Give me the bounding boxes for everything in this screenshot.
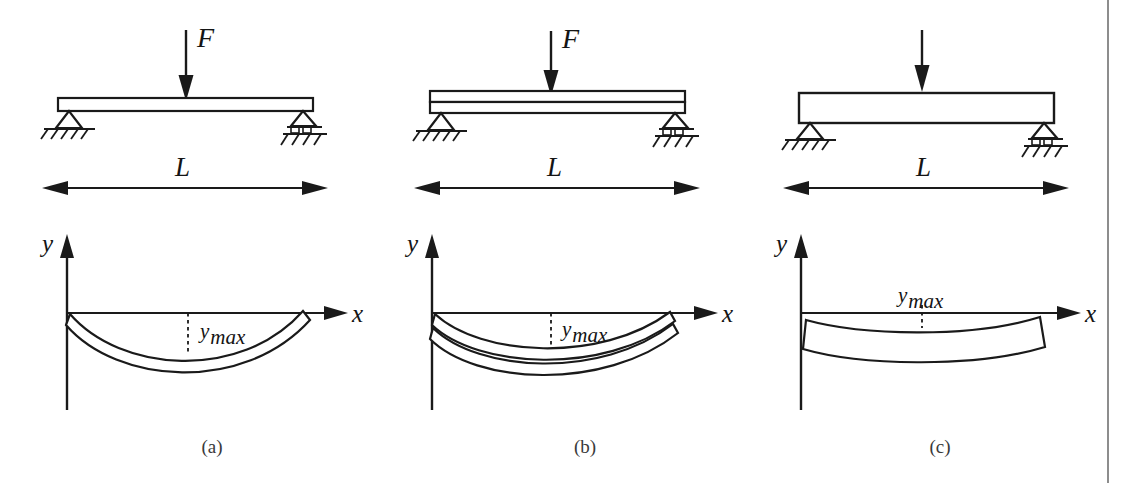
panel-caption-b: (b) — [574, 436, 596, 458]
panel-caption-c: (c) — [929, 436, 950, 458]
y-axis-label-b: y — [404, 230, 419, 257]
support-left-a — [41, 111, 95, 139]
support-left-c — [782, 123, 836, 150]
deflection-curve-c — [803, 317, 1045, 362]
beam-deflection-figure: F — [0, 0, 1131, 483]
span-label-c: L — [915, 152, 931, 182]
y-axis-label-c: y — [773, 230, 788, 257]
span-dimension-c — [783, 181, 1069, 195]
force-arrow-b — [544, 31, 559, 96]
y-axis-label-a: y — [39, 230, 54, 257]
ymax-sub-b: max — [572, 323, 608, 347]
x-axis-label-c: x — [1084, 300, 1096, 327]
figure-canvas: F — [0, 0, 1131, 483]
ymax-label-c: ymax — [896, 283, 944, 313]
ymax-main-b: y — [560, 317, 572, 341]
x-axis-label-b: x — [721, 300, 733, 327]
force-arrow-c — [915, 30, 930, 92]
support-right-c — [1022, 123, 1068, 157]
ymax-sub-a: max — [210, 325, 246, 349]
span-dimension-b — [414, 181, 700, 195]
beam-b — [430, 91, 685, 113]
beam-a — [58, 98, 313, 111]
panel-b: F — [404, 23, 733, 458]
span-label-a: L — [174, 152, 190, 182]
span-label-b: L — [546, 152, 562, 182]
span-dimension-a — [42, 181, 328, 195]
ymax-main-a: y — [198, 319, 210, 343]
support-right-b — [653, 113, 699, 147]
x-axis-label-a: x — [351, 300, 363, 327]
ymax-label-a: ymax — [198, 319, 246, 349]
ymax-main-c: y — [896, 283, 908, 307]
panel-a: F — [39, 22, 363, 458]
panel-c: L y x ymax (c) — [773, 30, 1096, 458]
beam-c — [799, 93, 1054, 123]
force-label-a: F — [196, 22, 215, 53]
force-arrow-a — [179, 30, 194, 101]
ymax-sub-c: max — [908, 289, 944, 313]
deflection-curve-b — [430, 312, 678, 375]
support-right-a — [281, 111, 327, 145]
support-left-b — [413, 113, 467, 141]
ymax-label-b: ymax — [560, 317, 608, 347]
panel-caption-a: (a) — [201, 436, 222, 458]
force-label-b: F — [561, 23, 580, 54]
